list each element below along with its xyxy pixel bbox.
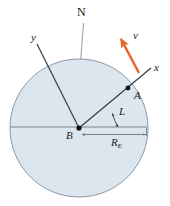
velocity-label: v [133, 30, 138, 41]
velocity-vector-arrow [121, 39, 139, 73]
figure-canvas: N y x v A B L RE [0, 0, 170, 206]
diagram-svg [0, 0, 170, 206]
x-axis-label: x [154, 62, 159, 73]
earth-radius-subscript: E [118, 142, 122, 150]
point-a-label: A [134, 90, 141, 101]
earth-radius-symbol: R [111, 136, 118, 148]
earth-radius-label: RE [111, 137, 122, 148]
north-label: N [77, 6, 86, 18]
y-axis-label: y [31, 32, 36, 43]
north-axis-line [81, 23, 84, 62]
point-a-marker [126, 86, 131, 91]
latitude-label: L [119, 106, 125, 117]
point-b-marker [76, 125, 81, 130]
point-b-label: B [66, 130, 73, 141]
